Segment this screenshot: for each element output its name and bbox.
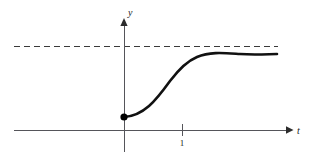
sigmoid-curve-figure: y t 1 xyxy=(0,0,312,163)
y-axis-arrow-icon xyxy=(120,18,127,26)
x-axis-tick-label-1: 1 xyxy=(180,138,185,148)
solution-curve xyxy=(124,53,277,117)
figure-container: y t 1 xyxy=(0,0,312,163)
y-axis-label: y xyxy=(127,7,133,18)
x-axis-arrow-icon xyxy=(286,126,294,134)
initial-value-dot xyxy=(120,113,127,120)
x-axis-label: t xyxy=(297,125,300,136)
